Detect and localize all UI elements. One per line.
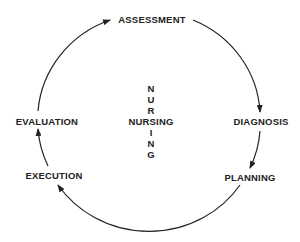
center-letter-i: I xyxy=(150,127,153,138)
center-nursing-horizontal: NURSING xyxy=(128,116,173,127)
center-letter-n2: N xyxy=(148,138,155,149)
arrow-planning-to-execution xyxy=(58,185,240,231)
stage-assessment: ASSESSMENT xyxy=(118,14,185,25)
stage-evaluation: EVALUATION xyxy=(16,116,78,127)
arrow-assessment-to-diagnosis xyxy=(193,20,260,112)
stage-diagnosis: DIAGNOSIS xyxy=(233,116,288,127)
center-letter-u: U xyxy=(148,94,155,105)
stage-execution: EXECUTION xyxy=(25,170,82,181)
stage-planning: PLANNING xyxy=(224,172,275,183)
arrow-evaluation-to-assessment xyxy=(38,20,110,111)
arrow-diagnosis-to-planning xyxy=(250,131,260,168)
center-letter-n: N xyxy=(148,83,155,94)
arrow-execution-to-evaluation xyxy=(38,129,48,166)
center-letter-r: R xyxy=(148,105,155,116)
center-letter-g: G xyxy=(147,149,154,160)
